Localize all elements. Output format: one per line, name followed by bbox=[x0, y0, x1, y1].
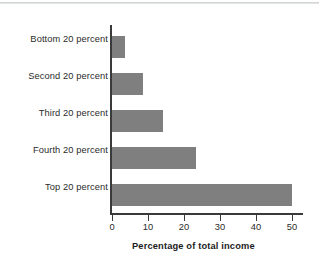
x-tick-label: 50 bbox=[277, 222, 307, 232]
x-axis-ticks: 01020304050 bbox=[0, 0, 319, 265]
x-tick-label: 40 bbox=[241, 222, 271, 232]
x-tick-label: 20 bbox=[169, 222, 199, 232]
income-distribution-bar-chart: Bottom 20 percentSecond 20 percentThird … bbox=[0, 0, 319, 265]
x-tick-label: 30 bbox=[205, 222, 235, 232]
x-tick-mark bbox=[220, 215, 221, 221]
x-tick-mark bbox=[256, 215, 257, 221]
x-tick-label: 10 bbox=[133, 222, 163, 232]
x-tick-mark bbox=[148, 215, 149, 221]
plot-area: Bottom 20 percentSecond 20 percentThird … bbox=[0, 0, 319, 265]
x-tick-mark bbox=[112, 215, 113, 221]
x-tick-mark bbox=[292, 215, 293, 221]
x-tick-label: 0 bbox=[97, 222, 127, 232]
x-tick-mark bbox=[184, 215, 185, 221]
x-axis-title: Percentage of total income bbox=[132, 241, 255, 251]
